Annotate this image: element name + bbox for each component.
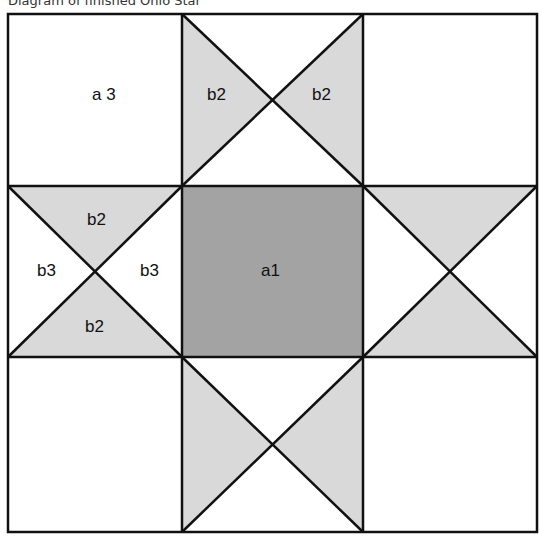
label-center-a1: a1 (261, 261, 280, 280)
star-point-left-bottom (8, 271, 182, 357)
star-point-bottom-right (272, 357, 363, 532)
label-corner-a3: a 3 (92, 85, 116, 104)
ohio-star-diagram: a 3 b2 b2 b2 b3 b3 b2 a1 (0, 0, 543, 539)
label-left-left-b3: b3 (37, 261, 56, 280)
label-top-left-b2: b2 (207, 85, 226, 104)
star-point-bottom-left (182, 357, 272, 532)
label-left-right-b3: b3 (140, 261, 159, 280)
star-point-right-bottom (363, 271, 537, 357)
label-left-bottom-b2: b2 (85, 317, 104, 336)
label-top-right-b2: b2 (312, 85, 331, 104)
label-left-top-b2: b2 (87, 210, 106, 229)
star-point-right-top (363, 186, 537, 271)
star-point-top-left (182, 14, 272, 186)
